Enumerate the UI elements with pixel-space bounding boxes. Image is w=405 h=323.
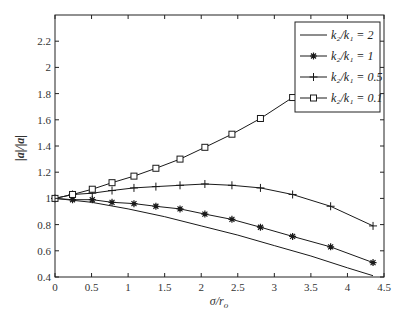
y-tick-label: 1.6 <box>37 114 51 126</box>
asterisk-dot <box>371 261 375 265</box>
y-tick-label: 2.2 <box>37 35 51 47</box>
asterisk-dot <box>90 198 94 202</box>
legend-label: k₂/k₁ = 2 <box>331 28 373 42</box>
asterisk-dot <box>259 225 263 229</box>
plus-marker <box>289 190 297 198</box>
plus-marker <box>256 184 264 192</box>
y-tick-label: 2 <box>46 61 52 73</box>
x-tick-label: 4 <box>345 281 351 293</box>
legend-label: k₂/k₁ = 0.5 <box>331 70 382 84</box>
legend-label: k₂/k₁ = 0.1 <box>331 91 382 105</box>
plus-marker <box>152 183 160 191</box>
series-line <box>55 198 373 275</box>
asterisk-dot <box>178 207 182 211</box>
plus-marker <box>327 202 335 210</box>
y-tick-label: 0.8 <box>37 219 51 231</box>
square-marker <box>70 191 76 197</box>
square-marker <box>311 95 317 101</box>
asterisk-dot <box>203 212 207 216</box>
plus-marker <box>228 181 236 189</box>
x-tick-label: 0.5 <box>85 281 99 293</box>
y-tick-label: 0.6 <box>37 245 51 257</box>
square-marker <box>89 186 95 192</box>
asterisk-dot <box>154 204 158 208</box>
plus-marker <box>176 181 184 189</box>
plus-marker <box>108 187 116 195</box>
square-marker <box>177 156 183 162</box>
square-marker <box>109 180 115 186</box>
plus-marker <box>201 180 209 188</box>
asterisk-dot <box>110 201 114 205</box>
asterisk-dot <box>230 218 234 222</box>
x-tick-label: 2.5 <box>231 281 245 293</box>
series-1 <box>55 198 373 275</box>
square-marker <box>202 144 208 150</box>
series-3 <box>51 180 377 230</box>
series-line <box>55 184 373 226</box>
square-marker <box>229 131 235 137</box>
square-marker <box>131 173 137 179</box>
y-tick-label: 1.4 <box>37 140 51 152</box>
line-chart: k₂/k₁ = 2k₂/k₁ = 1k₂/k₁ = 0.5k₂/k₁ = 0.1… <box>0 0 405 323</box>
y-tick-label: 1.8 <box>37 88 51 100</box>
x-tick-label: 2 <box>198 281 204 293</box>
x-tick-label: 4.5 <box>377 281 391 293</box>
y-tick-label: 0.4 <box>37 271 51 283</box>
series-line <box>55 198 373 262</box>
x-tick-label: 3 <box>272 281 278 293</box>
asterisk-dot <box>291 235 295 239</box>
asterisk-dot <box>329 245 333 249</box>
x-tick-label: 1 <box>125 281 131 293</box>
y-axis-label: |a|/|a| <box>13 135 27 161</box>
plus-marker <box>369 222 377 230</box>
asterisk-dot <box>312 54 316 58</box>
x-tick-label: 3.5 <box>304 281 318 293</box>
square-marker <box>153 165 159 171</box>
x-axis-label: σ/ro <box>210 294 229 310</box>
square-marker <box>257 115 263 121</box>
legend-label: k₂/k₁ = 1 <box>331 49 373 63</box>
asterisk-dot <box>132 202 136 206</box>
plus-marker <box>130 184 138 192</box>
y-tick-label: 1 <box>46 192 52 204</box>
y-tick-label: 1.2 <box>37 166 51 178</box>
x-tick-label: 0 <box>52 281 58 293</box>
x-tick-label: 1.5 <box>158 281 172 293</box>
